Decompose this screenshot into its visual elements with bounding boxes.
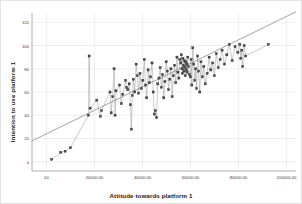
plot-area bbox=[1, 1, 302, 204]
regression-line bbox=[32, 12, 296, 141]
y-tick-label: 20 bbox=[17, 136, 29, 141]
x-tick-label: 80000,00 bbox=[230, 175, 247, 180]
scatter-chart: 0020000,0040000,0060000,0080000,00100000… bbox=[0, 0, 302, 204]
y-tick-label: 40 bbox=[17, 113, 29, 118]
connector-line bbox=[52, 44, 269, 159]
y-tick-label: 80 bbox=[17, 66, 29, 71]
y-tick-label: 60 bbox=[17, 90, 29, 95]
y-axis-title: Intention to use platform 1 bbox=[9, 37, 16, 167]
y-tick-label: 0 bbox=[17, 159, 29, 164]
x-tick-label: 100000,00 bbox=[276, 175, 296, 180]
x-tick-label: 40000,00 bbox=[134, 175, 151, 180]
x-axis-title: Attitude towards platform 1 bbox=[1, 192, 301, 199]
x-tick-label: 00 bbox=[44, 175, 49, 180]
y-tick-label: 120 bbox=[17, 20, 29, 25]
x-tick-label: 20000,00 bbox=[86, 175, 103, 180]
y-tick-label: 100 bbox=[17, 43, 29, 48]
data-points bbox=[51, 43, 270, 160]
x-tick-label: 60000,00 bbox=[182, 175, 199, 180]
